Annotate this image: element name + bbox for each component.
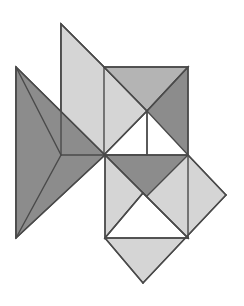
tangram-figure: Abstract Tangram Composition: [0, 0, 244, 306]
